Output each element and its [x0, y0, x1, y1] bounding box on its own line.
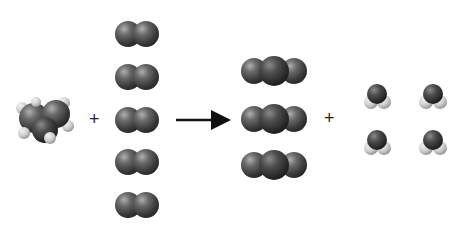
carbon-dioxide-molecules — [241, 56, 307, 180]
water-molecule — [364, 130, 391, 155]
oxygen-molecule — [115, 107, 159, 133]
water-molecule — [364, 84, 391, 109]
carbon-dioxide-molecule — [241, 104, 307, 134]
carbon-dioxide-molecule — [241, 150, 307, 180]
plus-sign-products: + — [324, 109, 335, 127]
plus-sign-reactants: + — [89, 110, 100, 128]
propane-molecule — [16, 97, 74, 144]
oxygen-molecule — [115, 64, 159, 90]
carbon-dioxide-molecule — [241, 56, 307, 86]
water-molecule — [419, 84, 447, 109]
oxygen-molecules — [115, 21, 159, 218]
reaction-diagram — [0, 0, 465, 228]
oxygen-molecule — [115, 192, 159, 218]
water-molecules — [364, 84, 447, 155]
oxygen-molecule — [115, 21, 159, 47]
water-molecule — [419, 130, 447, 155]
oxygen-molecule — [115, 149, 159, 175]
